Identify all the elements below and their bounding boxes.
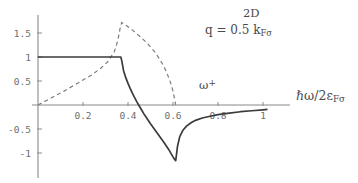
figure-2d-response-function: 0.20.40.60.81 1.510.5-0.5-1 2D q = 0.5 k…: [0, 0, 358, 183]
y-tick-label--0.5: -0.5: [8, 124, 31, 135]
title-q-subscript: Fσ: [261, 28, 273, 38]
title-wavevector-label: q = 0.5 kFσ: [205, 24, 272, 39]
omega-plus-annotation: ω+: [199, 79, 216, 92]
omega-plus-superscript: +: [208, 78, 216, 88]
title-dimension-label: 2D: [243, 7, 260, 20]
x-axis-label: ℏω/2εFσ: [296, 89, 345, 105]
y-tick-labels: 1.510.5-0.5-1: [8, 28, 31, 159]
imaginary-part-dashed-curve: [38, 22, 176, 105]
y-tick-label-0.5: 0.5: [14, 76, 31, 87]
title-q-prefix: q = 0.5 k: [205, 23, 261, 37]
y-tick-label-1: 1: [25, 52, 31, 63]
axes-group: [32, 15, 290, 178]
y-tick-label--1: -1: [20, 148, 32, 159]
real-part-solid-curve: [38, 57, 268, 161]
x-axis-label-subscript: Fσ: [333, 94, 345, 104]
omega-plus-base: ω: [199, 78, 208, 92]
x-tick-label-0.2: 0.2: [74, 110, 91, 121]
x-tick-label-1: 1: [260, 110, 266, 121]
x-tick-label-0.4: 0.4: [119, 110, 136, 121]
y-tick-label-1.5: 1.5: [14, 28, 31, 39]
x-axis-label-main: ℏω/2ε: [296, 88, 333, 103]
x-tick-label-0.6: 0.6: [164, 110, 181, 121]
